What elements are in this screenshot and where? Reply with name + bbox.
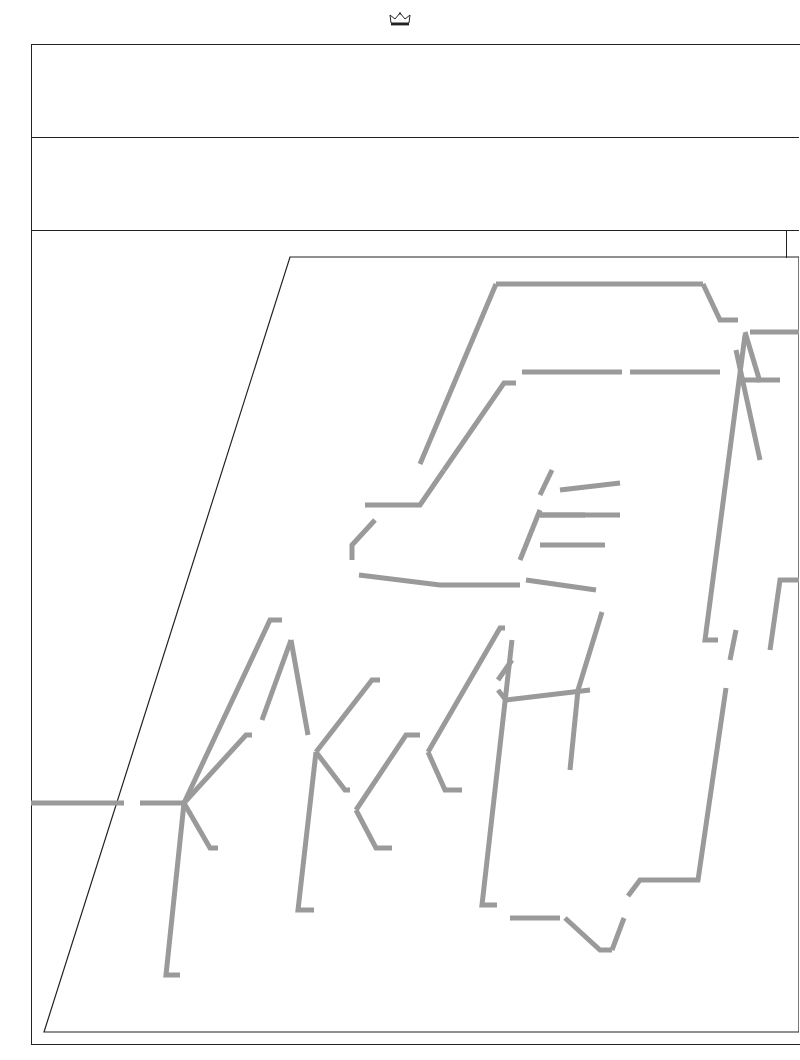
descent-lines (31, 284, 799, 975)
